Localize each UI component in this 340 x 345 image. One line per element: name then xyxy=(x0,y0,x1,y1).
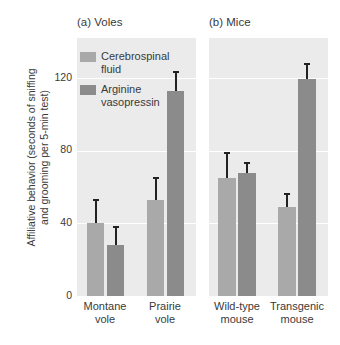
error-bar-wildtype-csf xyxy=(226,153,228,178)
bar-montane-csf xyxy=(87,223,104,296)
y-tick-0: 0 xyxy=(42,289,72,301)
legend-csf-line2: fluid xyxy=(101,63,169,76)
category-transgenic-line1: Transgenic xyxy=(262,300,332,313)
legend-label-avp: Arginine vasopressin xyxy=(101,83,160,109)
legend-avp-line2: vasopressin xyxy=(101,96,160,109)
bar-wildtype-csf xyxy=(218,178,236,296)
category-prairie-vole: Prairie vole xyxy=(130,300,200,326)
legend-swatch-avp xyxy=(80,85,96,95)
bar-prairie-csf xyxy=(147,200,164,296)
bar-transgenic-csf xyxy=(278,207,296,296)
gridline-120 xyxy=(77,78,196,79)
y-tick-120: 120 xyxy=(42,71,72,83)
bar-wildtype-avp xyxy=(238,173,256,296)
error-bar-transgenic-avp xyxy=(306,64,308,79)
legend-label-csf: Cerebrospinal fluid xyxy=(101,50,169,76)
y-axis-label-line1: Affiliative behavior (seconds of sniffin… xyxy=(25,58,38,258)
bar-prairie-avp xyxy=(167,91,184,296)
error-bar-wildtype-avp xyxy=(246,163,248,173)
bar-transgenic-avp xyxy=(298,79,316,296)
error-cap-prairie-avp xyxy=(173,71,179,73)
legend-swatch-csf xyxy=(80,52,96,62)
category-prairie-line1: Prairie xyxy=(130,300,200,313)
error-bar-prairie-csf xyxy=(155,178,157,200)
error-bar-prairie-avp xyxy=(175,72,177,91)
error-cap-wildtype-avp xyxy=(244,162,250,164)
y-tick-80: 80 xyxy=(42,143,72,155)
error-cap-transgenic-csf xyxy=(284,193,290,195)
error-bar-montane-csf xyxy=(95,200,97,223)
panel-a-title: (a) Voles xyxy=(77,16,122,28)
bar-montane-avp xyxy=(107,245,124,296)
legend-csf-line1: Cerebrospinal xyxy=(101,50,169,63)
category-transgenic-mouse: Transgenic mouse xyxy=(262,300,332,326)
error-cap-wildtype-csf xyxy=(224,152,230,154)
legend-avp-line1: Arginine xyxy=(101,83,160,96)
error-cap-prairie-csf xyxy=(153,177,159,179)
error-cap-transgenic-avp xyxy=(304,63,310,65)
error-cap-montane-csf xyxy=(93,199,99,201)
error-bar-montane-avp xyxy=(115,227,117,245)
category-prairie-line2: vole xyxy=(130,313,200,326)
error-bar-transgenic-csf xyxy=(286,194,288,207)
category-transgenic-line2: mouse xyxy=(262,313,332,326)
error-cap-montane-avp xyxy=(113,226,119,228)
panel-b-title: (b) Mice xyxy=(209,16,251,28)
y-tick-40: 40 xyxy=(42,216,72,228)
